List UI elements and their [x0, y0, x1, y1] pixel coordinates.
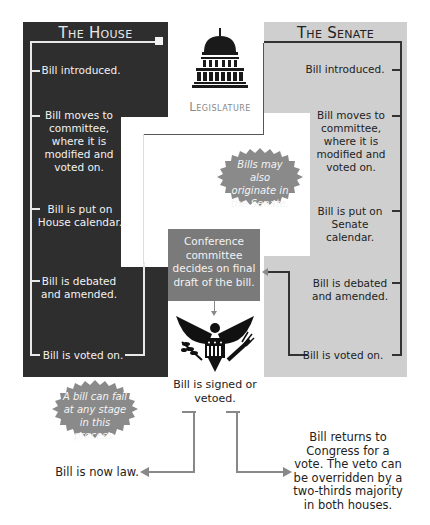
- senate-step-1: Bill introduced.: [300, 63, 390, 76]
- fail-note: A bill can fail at any stage in this pro…: [60, 390, 130, 442]
- outcome-veto: Bill returns to Congress for a vote. The…: [292, 431, 404, 513]
- house-tick: [30, 70, 40, 72]
- senate-title: The Senate: [264, 24, 407, 42]
- house-tick: [30, 115, 40, 117]
- senate-tick: [392, 354, 402, 356]
- house-vertical-line: [30, 41, 32, 355]
- conference-committee-box: Conference committee decides on final dr…: [168, 229, 260, 301]
- senate-tick: [392, 282, 402, 284]
- house-tick: [30, 280, 40, 282]
- house-panel-fill: [23, 250, 121, 270]
- house-step-5: Bill is voted on.: [40, 349, 126, 362]
- arrow-right-icon: [283, 467, 292, 477]
- veto-line-v: [236, 411, 238, 473]
- senate-to-conf-line: [266, 271, 290, 273]
- senate-origin-burst: Bills may also originate in the Senate.: [217, 148, 303, 206]
- house-title: The House: [23, 24, 168, 42]
- house-out-line-v: [143, 262, 145, 356]
- house-top-line: [30, 41, 158, 43]
- house-tick: [30, 354, 40, 356]
- house-step-3: Bill is put on House calendar.: [36, 203, 124, 229]
- senate-origin-note: Bills may also originate in the Senate.: [227, 158, 293, 210]
- center-frame-top: [143, 134, 264, 135]
- senate-top-line: [264, 41, 402, 43]
- outcome-law: Bill is now law.: [52, 465, 142, 479]
- fail-burst: A bill can fail at any stage in this pro…: [52, 380, 138, 438]
- legislature-label: Legislature: [180, 100, 260, 114]
- executive-label: Bill is signed or vetoed.: [168, 378, 262, 406]
- house-step-4: Bill is debated and amended.: [40, 275, 118, 301]
- house-out-line-h: [125, 354, 145, 356]
- senate-step-2: Bill moves to committee, where it is mod…: [312, 109, 390, 174]
- house-step-2: Bill moves to committee, where it is mod…: [40, 109, 118, 174]
- signed-line-h: [148, 471, 195, 473]
- senate-out-line-v: [288, 271, 290, 356]
- center-frame-right: [263, 43, 264, 135]
- veto-line-h: [236, 471, 284, 473]
- house-step-1: Bill introduced.: [40, 64, 122, 77]
- center-frame-left: [143, 134, 144, 264]
- signed-line-v: [193, 411, 195, 473]
- senate-step-5: Bill is voted on.: [296, 349, 390, 362]
- senate-tick: [392, 69, 402, 71]
- senate-vertical-line: [400, 41, 402, 355]
- capitol-dome-icon: [190, 24, 250, 94]
- senate-step-4: Bill is debated and amended.: [310, 277, 390, 303]
- arrow-left-icon: [262, 268, 268, 276]
- presidential-eagle-icon: [172, 314, 258, 376]
- house-start-marker: [155, 37, 163, 45]
- senate-step-3: Bill is put on Senate calendar.: [306, 205, 394, 244]
- senate-tick: [392, 115, 402, 117]
